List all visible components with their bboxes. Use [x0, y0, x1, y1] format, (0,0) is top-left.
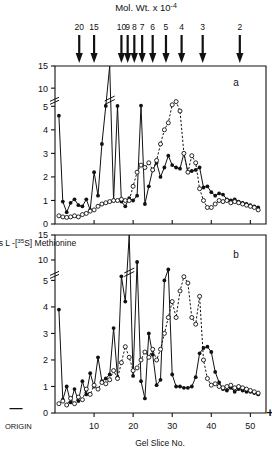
- panel-b-filled-circle-point: [112, 326, 116, 330]
- panel-b-filled-circle-point: [120, 274, 124, 278]
- x-axis-title: Gel Slice No.: [135, 438, 185, 448]
- panel-a-filled-circle-point: [213, 194, 217, 198]
- panel-b-open-circle-point: [166, 316, 170, 320]
- panel-b-filled-circle-point: [104, 377, 108, 381]
- figure-container: Mol. Wt. x 10-42015109876543201234510150…: [0, 0, 272, 459]
- panel-a-filled-circle-point: [147, 184, 151, 188]
- panel-a-open-circle-point: [233, 200, 237, 204]
- panel-a-ytick-label-10: 10: [38, 84, 48, 94]
- panel-b-open-circle-point: [229, 383, 233, 387]
- mw-marker-label-2: 2: [237, 22, 242, 32]
- mw-marker-arrow-3: [199, 35, 206, 63]
- panel-a-open-circle-point: [170, 103, 174, 107]
- panel-b-filled-circle-point: [190, 385, 194, 389]
- panel-a-open-circle-point: [123, 199, 127, 203]
- panel-b-open-circle-point: [143, 350, 147, 354]
- panel-b-open-circle-point: [104, 382, 108, 386]
- panel-a-open-circle-point: [57, 214, 61, 218]
- panel-a-open-circle-point: [166, 121, 170, 125]
- panel-b-filled-circle-point: [202, 346, 206, 350]
- panel-a-open-circle-point: [241, 202, 245, 206]
- panel-b-filled-circle-point: [57, 308, 61, 312]
- mw-marker-arrow-20: [76, 35, 83, 63]
- panel-b-filled-circle-point: [139, 379, 143, 383]
- panel-b-letter: b: [233, 249, 239, 260]
- panel-a-open-circle-point: [84, 211, 88, 215]
- panel-b-filled-circle-point: [96, 355, 100, 359]
- panel-a-open-circle-point: [104, 201, 108, 205]
- panel-b-filled-circle-point: [135, 260, 139, 264]
- panel-b-filled-circle-point: [174, 385, 178, 389]
- panel-b-open-circle-point: [245, 387, 249, 391]
- panel-a-filled-circle-point: [190, 169, 194, 173]
- panel-b-open-circle-point: [186, 281, 190, 285]
- panel-a-open-circle-point: [127, 199, 131, 203]
- panel-b-open-circle-point: [162, 331, 166, 335]
- panel-b-open-circle-point: [65, 403, 69, 407]
- panel-a-filled-circle-point: [116, 104, 120, 108]
- xtick-label-20: 20: [128, 421, 138, 431]
- panel-a-filled-circle-point: [131, 199, 135, 203]
- panel-a-filled-circle-point: [206, 184, 210, 188]
- negative-polarity-label: —: [10, 400, 23, 415]
- panel-b-ytick-label-5: 5: [43, 276, 48, 286]
- panel-a-ytick-label-1: 1: [43, 196, 48, 206]
- panel-a-filled-circle-point: [77, 203, 81, 207]
- xtick-label-50: 50: [245, 421, 255, 431]
- panel-b-filled-circle-point: [147, 332, 151, 336]
- positive-polarity-label: +: [266, 405, 272, 420]
- panel-a-filled-circle-point: [170, 163, 174, 167]
- panel-a-filled-circle-point: [104, 104, 108, 108]
- panel-a-filled-circle-point: [178, 167, 182, 171]
- panel-a-open-circle-point: [174, 100, 178, 104]
- panel-b-open-circle-point: [108, 378, 112, 382]
- panel-b-filled-circle-point: [123, 300, 127, 304]
- panel-a-open-circle-point: [217, 199, 221, 203]
- panel-a-ytick-label-2: 2: [43, 172, 48, 182]
- panel-b-filled-circle-point: [69, 401, 73, 405]
- panel-b-filled-circle-point: [163, 279, 167, 283]
- mw-marker-label-5: 5: [164, 22, 169, 32]
- panel-a-open-circle-point: [202, 199, 206, 203]
- panel-a-open-circle-point: [100, 202, 104, 206]
- panel-b-filled-circle-point: [88, 371, 92, 375]
- mw-marker-arrow-7: [139, 35, 146, 63]
- panel-a-open-circle-point: [237, 201, 241, 205]
- panel-b-open-circle-point: [119, 361, 123, 365]
- panel-a-filled-circle-point: [73, 197, 77, 201]
- panel-b-open-circle-point: [116, 377, 120, 381]
- panel-a-filled-circle-point: [202, 186, 206, 190]
- panel-a-open-circle-point: [135, 170, 139, 174]
- panel-b-filled-circle-point: [143, 397, 147, 401]
- panel-b-open-circle-point: [237, 385, 241, 389]
- panel-b-open-circle-point: [151, 347, 155, 351]
- panel-b-open-circle-point: [96, 387, 100, 391]
- panel-a-ytick-label-15: 15: [38, 61, 48, 71]
- panel-b-filled-circle-point: [131, 374, 135, 378]
- mw-marker-label-9: 9: [125, 22, 130, 32]
- mw-marker-arrow-8: [131, 35, 138, 63]
- panel-b-filled-circle-point: [182, 386, 186, 390]
- panel-a-open-circle-point: [112, 199, 116, 203]
- panel-b-filled-circle-point: [213, 370, 217, 374]
- panel-a-open-circle-point: [205, 206, 209, 210]
- panel-a-open-circle-point: [92, 208, 96, 212]
- mw-marker-arrow-10: [118, 35, 125, 63]
- panel-b-open-circle-point: [100, 381, 104, 385]
- panel-a-open-circle-point: [88, 209, 92, 213]
- panel-a-open-circle-point: [248, 204, 252, 208]
- panel-a-filled-circle-point: [166, 154, 170, 158]
- mw-marker-label-15: 15: [89, 22, 99, 32]
- panel-b-ytick-label-1: 1: [43, 382, 48, 392]
- panel-b-ytick-label-4: 4: [43, 302, 48, 312]
- panel-b-filled-circle-point: [108, 373, 112, 377]
- panel-b-open-circle-point: [84, 387, 88, 391]
- panel-b-filled-circle-point: [159, 378, 163, 382]
- panel-a-filled-circle-point: [174, 166, 178, 170]
- panel-b-open-circle-point: [170, 300, 174, 304]
- panel-b-open-circle-point: [202, 358, 206, 362]
- panel-a-filled-circle-point: [69, 201, 73, 205]
- panel-b-filled-circle-point: [194, 375, 198, 379]
- xtick-label-40: 40: [206, 421, 216, 431]
- panel-b-open-circle-point: [139, 358, 143, 362]
